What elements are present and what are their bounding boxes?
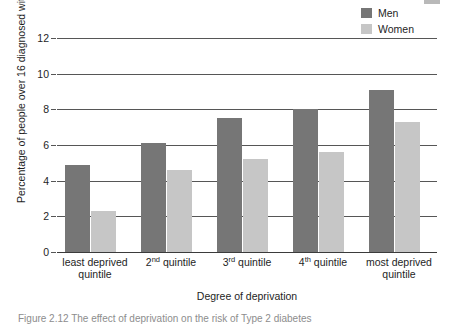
y-tick-label-6: 6 bbox=[29, 140, 49, 150]
y-tick-label-10: 10 bbox=[29, 69, 49, 79]
bar-women-2 bbox=[167, 170, 192, 252]
bar-group bbox=[141, 20, 192, 252]
y-tick-10 bbox=[51, 74, 56, 75]
bar-women-5 bbox=[395, 122, 420, 252]
x-axis-title: Degree of deprivation bbox=[57, 290, 437, 302]
figure-caption: Figure 2.12 The effect of deprivation on… bbox=[18, 313, 438, 325]
bar-group bbox=[217, 20, 268, 252]
y-tick-label-4: 4 bbox=[29, 176, 49, 186]
x-category-label-1: least deprivedquintile bbox=[57, 256, 133, 280]
y-tick-label-8: 8 bbox=[29, 104, 49, 114]
y-axis-tick-labels: 024681012 bbox=[29, 20, 49, 252]
x-category-label-3: 3rd quintile bbox=[209, 256, 285, 268]
x-axis-category-labels: least deprivedquintile2nd quintile3rd qu… bbox=[57, 256, 437, 286]
x-category-label-4: 4th quintile bbox=[285, 256, 361, 268]
y-tick-12 bbox=[51, 38, 56, 39]
bar-men-1 bbox=[65, 165, 90, 252]
bar-men-5 bbox=[369, 90, 394, 252]
plot-area bbox=[57, 20, 437, 252]
x-category-label-5: most deprivedquintile bbox=[361, 256, 437, 280]
y-tick-2 bbox=[51, 216, 56, 217]
bar-men-4 bbox=[293, 109, 318, 252]
bar-women-1 bbox=[91, 211, 116, 252]
y-tick-0 bbox=[51, 252, 56, 253]
bar-women-4 bbox=[319, 152, 344, 252]
y-tick-4 bbox=[51, 181, 56, 182]
x-axis-line bbox=[57, 252, 437, 253]
bar-men-3 bbox=[217, 118, 242, 252]
y-tick-label-0: 0 bbox=[29, 247, 49, 257]
bar-women-3 bbox=[243, 159, 268, 252]
bar-group bbox=[293, 20, 344, 252]
y-tick-8 bbox=[51, 109, 56, 110]
x-category-label-2: 2nd quintile bbox=[133, 256, 209, 268]
bar-group bbox=[369, 20, 420, 252]
bar-men-2 bbox=[141, 143, 166, 252]
y-tick-label-12: 12 bbox=[29, 33, 49, 43]
y-tick-6 bbox=[51, 145, 56, 146]
y-tick-label-2: 2 bbox=[29, 211, 49, 221]
bar-group bbox=[65, 20, 116, 252]
y-axis-title: Percentage of people over 16 diagnosed w… bbox=[15, 0, 27, 203]
